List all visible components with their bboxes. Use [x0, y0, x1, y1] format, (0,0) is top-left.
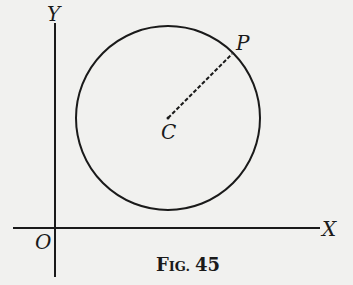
point-label: P — [235, 31, 250, 55]
center-label: C — [161, 120, 176, 144]
x-axis-label: X — [320, 217, 337, 241]
origin-label: O — [35, 230, 51, 254]
y-axis-label: Y — [47, 2, 62, 26]
figure-caption: FIG.45 — [156, 254, 220, 275]
figure-canvas: Y X O C P FIG.45 — [0, 0, 353, 285]
radius-line — [168, 54, 232, 118]
